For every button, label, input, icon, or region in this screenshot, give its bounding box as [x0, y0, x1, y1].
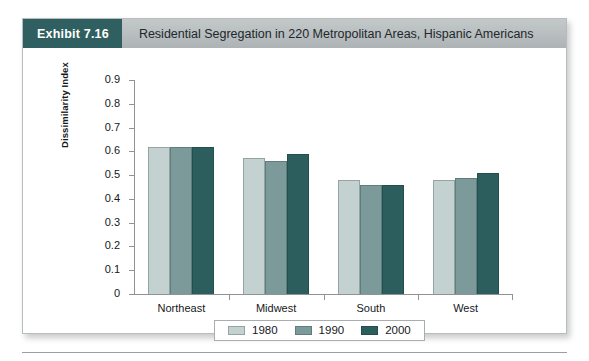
bar-group: South — [324, 79, 419, 294]
bar-northeast-2000 — [192, 147, 214, 294]
bar-south-1980 — [338, 180, 360, 294]
y-axis-tick: 0 — [129, 294, 134, 295]
y-axis-tick-label: 0.1 — [105, 263, 120, 275]
plot-area: 0.90.80.70.60.50.40.30.20.10 NortheastMi… — [134, 80, 513, 295]
legend-label: 1990 — [319, 324, 345, 336]
bar-midwest-1990 — [265, 161, 287, 294]
legend-label: 2000 — [385, 324, 411, 336]
y-axis-tick-label: 0.9 — [105, 73, 120, 85]
y-axis-tick-label: 0.3 — [105, 216, 120, 228]
x-axis-tick — [418, 295, 419, 300]
bar-group: Midwest — [229, 79, 324, 294]
bar-northeast-1980 — [148, 147, 170, 294]
y-axis-label: Dissimilarity Index — [59, 134, 70, 148]
bar-midwest-2000 — [287, 154, 309, 294]
y-axis-tick-label: 0.8 — [105, 97, 120, 109]
exhibit-header: Exhibit 7.16 Residential Segregation in … — [23, 19, 566, 48]
bar-group: West — [418, 79, 513, 294]
legend-label: 1980 — [252, 324, 278, 336]
exhibit-panel: Exhibit 7.16 Residential Segregation in … — [22, 18, 567, 334]
bar-west-1980 — [433, 180, 455, 294]
x-axis-tick — [512, 295, 513, 300]
bar-west-2000 — [477, 173, 499, 294]
y-axis-tick-label: 0 — [114, 287, 120, 299]
bar-midwest-1980 — [243, 158, 265, 294]
bar-west-1990 — [455, 178, 477, 295]
bar-south-2000 — [382, 185, 404, 294]
legend-swatch-1980 — [228, 326, 245, 335]
exhibit-title: Residential Segregation in 220 Metropoli… — [122, 19, 534, 48]
legend-swatch-1990 — [295, 326, 312, 335]
bar-south-1990 — [360, 185, 382, 294]
x-axis-tick — [229, 295, 230, 300]
legend-item-1990[interactable]: 1990 — [295, 324, 345, 336]
legend-item-1980[interactable]: 1980 — [228, 324, 278, 336]
bar-group: Northeast — [134, 79, 229, 294]
legend-swatch-2000 — [361, 326, 378, 335]
x-axis-category-label: West — [406, 302, 526, 314]
y-axis-tick-label: 0.5 — [105, 168, 120, 180]
x-axis-tick — [324, 295, 325, 300]
y-axis-tick-label: 0.7 — [105, 121, 120, 133]
chart-area: Dissimilarity Index 0.90.80.70.60.50.40.… — [23, 48, 566, 335]
y-axis-tick-label: 0.4 — [105, 192, 120, 204]
legend-item-2000[interactable]: 2000 — [361, 324, 411, 336]
chart-legend: 198019902000 — [214, 320, 425, 341]
exhibit-number-badge: Exhibit 7.16 — [23, 19, 122, 48]
footer-rule — [22, 352, 567, 353]
y-axis-tick-label: 0.6 — [105, 144, 120, 156]
bar-northeast-1990 — [170, 147, 192, 294]
screenshot-root: Exhibit 7.16 Residential Segregation in … — [0, 0, 589, 361]
y-axis-tick-label: 0.2 — [105, 239, 120, 251]
